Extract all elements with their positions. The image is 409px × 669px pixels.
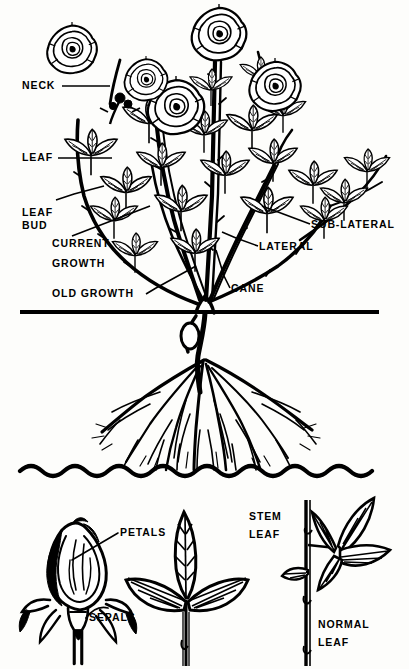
rose-anatomy-diagram: NECK LEAF LEAF BUD CURRENT GROWTH OLD GR…: [0, 0, 409, 669]
rose-bush-canes: [74, 52, 386, 313]
label-normal-leaf-line1: NORMAL: [318, 618, 369, 630]
rose-blooms: [47, 4, 301, 134]
label-current-growth-line2: GROWTH: [52, 257, 105, 269]
label-stem-leaf-line1: STEM: [249, 510, 282, 522]
label-stem-leaf-line2: LEAF: [249, 528, 280, 540]
label-leaf-bud-line1: LEAF: [22, 206, 53, 218]
label-normal-leaf-line2: LEAF: [318, 636, 349, 648]
label-leaf: LEAF: [22, 152, 53, 164]
label-sepals: SEPALS: [89, 612, 136, 624]
label-current-growth-line1: CURRENT: [52, 237, 110, 249]
label-leaf-bud-line2: BUD: [22, 219, 47, 231]
label-lateral: LATERAL: [259, 241, 314, 253]
label-old-growth: OLD GROWTH: [52, 288, 134, 300]
label-cane: CANE: [231, 283, 264, 295]
rosebud-specimen: [19, 518, 137, 664]
label-sub-lateral: SUB-LATERAL: [311, 219, 395, 231]
label-petals: PETALS: [120, 527, 166, 539]
label-neck: NECK: [22, 80, 55, 92]
illustration-layer: [0, 0, 409, 669]
